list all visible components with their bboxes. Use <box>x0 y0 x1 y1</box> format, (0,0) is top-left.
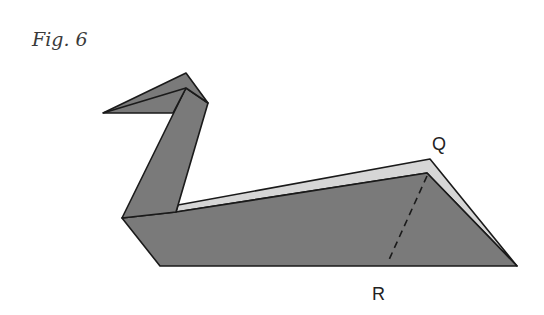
origami-swan-diagram <box>0 0 544 315</box>
label-r: R <box>372 284 385 305</box>
label-q: Q <box>432 134 446 155</box>
